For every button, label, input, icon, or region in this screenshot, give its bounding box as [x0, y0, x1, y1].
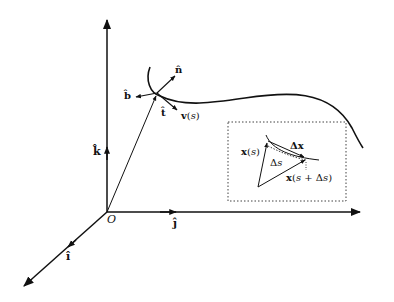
- origin-label: O: [107, 213, 116, 226]
- normal-vector: [157, 76, 175, 93]
- velocity-label: v(s): [180, 110, 200, 121]
- space-curve: [148, 67, 363, 148]
- binormal-vector: [136, 93, 157, 97]
- t-hat-label: t̂: [160, 106, 166, 118]
- diagram-canvas: O k̂ ĵ î n̂ b̂ t̂ v(s) x(s) Δx Δs x(s + …: [0, 0, 394, 302]
- coordinate-axes: [24, 20, 360, 286]
- k-hat-label: k̂: [92, 144, 101, 158]
- b-hat-label: b̂: [123, 89, 131, 101]
- inset-x-s-plus-label: x(s + Δs): [286, 172, 332, 183]
- j-hat-label: ĵ: [172, 217, 177, 230]
- inset-delta-s-label: Δs: [270, 157, 282, 168]
- frenet-frame: [136, 76, 177, 110]
- inset-delta-x-label: Δx: [290, 140, 305, 151]
- inset-x-s-label: x(s): [241, 146, 260, 157]
- n-hat-label: n̂: [175, 64, 183, 75]
- i-hat-label: î: [66, 250, 71, 263]
- i-unit-arrow: [68, 240, 76, 247]
- x-axis: [24, 212, 107, 286]
- position-vector: [107, 96, 156, 212]
- inset-box: [228, 122, 346, 201]
